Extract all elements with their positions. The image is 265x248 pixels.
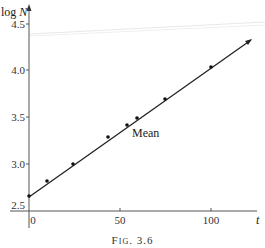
scan-artifact bbox=[30, 22, 265, 34]
x-axis-title: t bbox=[256, 213, 260, 227]
scan-artifact bbox=[30, 25, 265, 36]
mean-annotation: Mean bbox=[132, 126, 159, 140]
y-tick-label: 4.5 bbox=[11, 18, 25, 30]
y-tick-label: 4.0 bbox=[11, 64, 25, 76]
y-axis-title: log N bbox=[1, 5, 28, 19]
x-tick-label: 100 bbox=[203, 214, 220, 226]
y-tick-label: 3.0 bbox=[11, 158, 25, 170]
figure-caption: Fig. 3.6 bbox=[0, 234, 265, 246]
x-tick-label: 0 bbox=[30, 214, 36, 226]
y-tick-label: 3.5 bbox=[11, 111, 25, 123]
y-tick-label: 2.5 bbox=[11, 199, 25, 211]
chart: 4.5 4.0 3.5 3.0 2.5 0 50 100 log N t Mea… bbox=[0, 0, 265, 248]
x-tick-label: 50 bbox=[115, 214, 127, 226]
y-ticks: 4.5 4.0 3.5 3.0 2.5 bbox=[11, 18, 29, 211]
mean-line bbox=[29, 40, 251, 197]
